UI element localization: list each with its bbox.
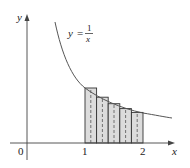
y-axis-arrow-icon [25,14,30,21]
riemann-sum-diagram: y x 0 1 2 y = 1 x [0,0,190,168]
svg-text:y: y [67,27,73,39]
origin-label: 0 [18,145,24,157]
svg-text:=: = [77,27,83,39]
svg-text:1: 1 [87,23,92,33]
x-tick-2: 2 [140,145,146,157]
svg-text:x: x [85,34,90,44]
x-axis-label: x [171,145,177,157]
y-axis-label: y [16,11,22,23]
x-tick-1: 1 [82,145,88,157]
function-label: y = 1 x [67,23,93,44]
